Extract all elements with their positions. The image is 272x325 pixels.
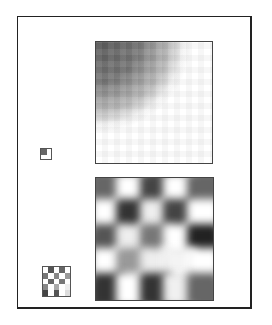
checker-thumbnail-icon — [42, 266, 71, 297]
thumbnail-dark-quadrant — [41, 149, 47, 155]
bottom-pattern-image — [95, 177, 214, 301]
gradient-steps — [96, 42, 212, 163]
gradient-thumbnail-icon — [40, 148, 52, 160]
checker-cell — [65, 290, 70, 296]
pattern-cell — [187, 273, 214, 301]
top-gradient-image — [95, 41, 213, 164]
